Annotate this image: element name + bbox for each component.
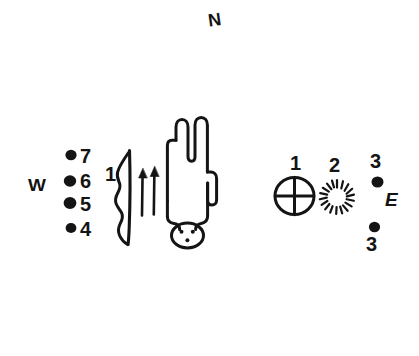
saguaro-cactus-glyph: [167, 117, 216, 248]
dot-glyph-7: [65, 150, 76, 160]
label-sunburst-2: 2: [329, 155, 340, 175]
center-glyph-group: [115, 117, 216, 248]
arrow-glyph-right: [150, 167, 159, 215]
label-north: N: [207, 10, 222, 30]
crossed-circle-glyph: [275, 177, 314, 215]
petroglyph-figure: N W E 7 6 5 4 1 1 2 3 3: [0, 0, 419, 356]
dot-glyph-upper-east: [372, 176, 384, 187]
dot-glyph-5: [64, 197, 77, 209]
arrows-glyph: [139, 167, 159, 216]
west-dot-column: [64, 150, 77, 233]
label-east-dot-lower-3: 3: [366, 234, 377, 254]
label-east: E: [385, 190, 398, 209]
label-east-dot-upper-3: 3: [370, 151, 381, 171]
label-west-dot-7: 7: [80, 146, 91, 166]
dot-glyph-6: [64, 175, 76, 187]
label-west-dot-5: 5: [80, 194, 91, 214]
label-crossed-circle-1: 1: [290, 153, 301, 173]
east-glyph-group: [275, 176, 384, 232]
label-west-dot-4: 4: [80, 219, 91, 239]
sunburst-glyph: [320, 180, 354, 214]
arrow-glyph-left: [139, 169, 147, 216]
petroglyph-drawing-canvas: [0, 0, 419, 356]
dot-glyph-lower-east: [369, 222, 380, 232]
label-west: W: [28, 177, 46, 193]
label-west-dot-6: 6: [80, 171, 91, 191]
bow-glyph: [115, 151, 130, 245]
label-bow-1: 1: [105, 164, 116, 184]
dot-glyph-4: [66, 223, 77, 233]
